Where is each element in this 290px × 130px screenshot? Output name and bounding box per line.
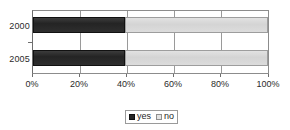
bar-row-2005 bbox=[33, 50, 268, 66]
x-axis-tick-label-60: 60% bbox=[156, 80, 190, 89]
legend-entry-no[interactable]: no bbox=[156, 112, 174, 121]
x-axis-tick-label-20: 20% bbox=[62, 80, 96, 89]
legend-entry-yes[interactable]: yes bbox=[129, 112, 151, 121]
chart-legend: yes no bbox=[125, 110, 178, 124]
x-axis-tick-0 bbox=[32, 74, 33, 77]
light-square-swatch-icon bbox=[156, 114, 162, 120]
bar-row-2000 bbox=[33, 17, 268, 33]
y-axis-label-2005: 2005 bbox=[2, 55, 30, 64]
x-axis-tick-40 bbox=[126, 74, 127, 77]
bar-segment-2000-yes[interactable] bbox=[33, 17, 125, 33]
legend-label-yes: yes bbox=[137, 112, 151, 121]
x-axis-tick-label-80: 80% bbox=[203, 80, 237, 89]
plot-area bbox=[32, 10, 269, 74]
legend-label-no: no bbox=[164, 112, 174, 121]
bar-segment-2005-no[interactable] bbox=[125, 50, 268, 66]
x-axis-tick-20 bbox=[79, 74, 80, 77]
x-axis-tick-label-100: 100% bbox=[251, 80, 285, 89]
x-axis-tick-label-0: 0% bbox=[15, 80, 49, 89]
x-axis-tick-60 bbox=[173, 74, 174, 77]
stacked-bar-chart: 2000 2005 0% 20% 40% 60% 80% 100% bbox=[0, 0, 290, 130]
dark-square-swatch-icon bbox=[129, 114, 135, 120]
x-axis-tick-100 bbox=[268, 74, 269, 77]
x-axis-tick-80 bbox=[220, 74, 221, 77]
x-axis-tick-label-40: 40% bbox=[109, 80, 143, 89]
bar-segment-2000-no[interactable] bbox=[125, 17, 268, 33]
y-axis-label-2000: 2000 bbox=[2, 22, 30, 31]
bar-segment-2005-yes[interactable] bbox=[33, 50, 125, 66]
